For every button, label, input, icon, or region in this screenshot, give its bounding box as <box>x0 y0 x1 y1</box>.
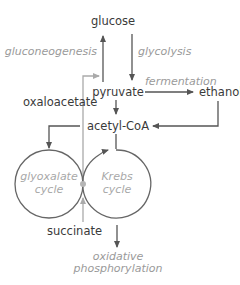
krebs-cycle-entry-arrow <box>96 150 108 157</box>
cycle-glyoxalate-label: glyoxalate <box>20 170 78 183</box>
metabolism-diagram: glucose gluconeogenesis glycolysis oxalo… <box>0 0 240 285</box>
cycle-krebs-label: Krebs <box>101 170 132 183</box>
cycle-glyoxalate-label-2: cycle <box>35 183 64 196</box>
cycle-junction-dot <box>80 181 86 187</box>
node-oxaloacetate: oxaloacetate <box>23 95 97 109</box>
process-oxidative-line2: phosphorylation <box>73 262 163 275</box>
acetylcoa-to-glyoxalate-arrow <box>49 126 80 148</box>
ethanol-to-acetylcoa-arrow <box>153 101 218 126</box>
node-acetyl-coa: acetyl-CoA <box>87 119 149 133</box>
node-succinate: succinate <box>47 224 102 238</box>
node-pyruvate: pyruvate <box>92 85 144 99</box>
process-glycolysis: glycolysis <box>138 45 192 58</box>
node-glucose: glucose <box>91 14 135 28</box>
process-gluconeogenesis: gluconeogenesis <box>5 45 98 58</box>
node-ethanol: ethanol <box>199 85 240 99</box>
cycle-krebs-label-2: cycle <box>103 183 132 196</box>
